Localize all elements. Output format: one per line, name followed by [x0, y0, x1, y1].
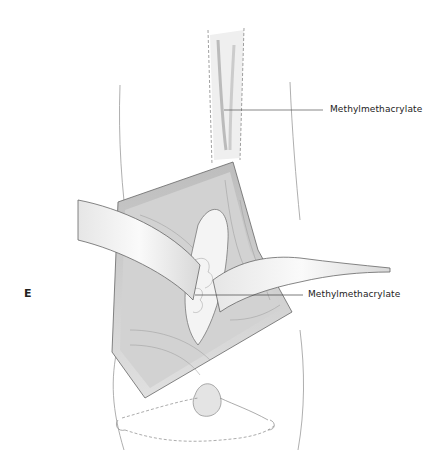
surgical-illustration [0, 0, 443, 476]
lower-region [116, 384, 275, 442]
panel-letter: E [24, 287, 32, 300]
upper-cement-column [208, 28, 244, 165]
label-methylmethacrylate-top: Methylmethacrylate [330, 104, 422, 114]
label-methylmethacrylate-bottom: Methylmethacrylate [308, 289, 400, 299]
